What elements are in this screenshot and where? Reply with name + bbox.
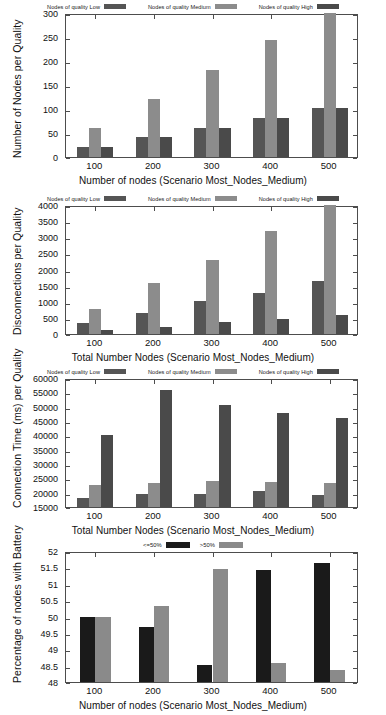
y-axis-tick (353, 272, 357, 273)
y-axis-tick (353, 480, 357, 481)
legend-item: Nodes of quality High (259, 196, 339, 202)
y-axis-tick (353, 668, 357, 669)
x-axis-title-2: Total Number Nodes (Scenario Most_Nodes_… (0, 352, 386, 363)
bar (136, 137, 148, 157)
x-axis-tick-label: 400 (262, 511, 278, 521)
bar (312, 281, 324, 334)
chart-nodes-per-quality: Nodes of quality LowNodes of quality Med… (0, 0, 386, 192)
bar (312, 108, 324, 157)
x-axis-tick (271, 380, 272, 384)
y-axis-labels-2: 05001000150020002500300035004000 (0, 206, 62, 335)
x-axis-tick (154, 380, 155, 384)
legend-item: Nodes of quality Medium (148, 4, 237, 10)
chart-disconnections-per-quality: Nodes of quality LowNodes of quality Med… (0, 192, 386, 365)
x-axis-tick-label: 500 (321, 686, 337, 696)
y-axis-tick-label: 30000 (33, 461, 58, 470)
bar (265, 40, 277, 157)
x-axis-labels-3: 100200300400500 (65, 511, 358, 523)
legend-item: Nodes of quality High (259, 369, 339, 375)
bar (194, 494, 206, 507)
bar (101, 330, 113, 335)
y-axis-tick (66, 619, 70, 620)
x-axis-tick (271, 553, 272, 557)
y-axis-labels-4: 4848.54949.55050.55151.552 (0, 552, 62, 683)
x-axis-tick-label: 200 (145, 511, 161, 521)
bar (206, 481, 218, 507)
x-axis-tick (154, 207, 155, 211)
y-axis-tick (353, 320, 357, 321)
bar (77, 147, 89, 157)
bar (213, 569, 228, 682)
bar (89, 485, 101, 507)
bar (219, 322, 231, 334)
x-axis-tick (95, 553, 96, 557)
x-axis-title-3: Total Number Nodes (Scenario Most_Nodes_… (0, 525, 386, 536)
legend-swatch (317, 196, 339, 201)
legend-item: Nodes of quality Low (47, 196, 126, 202)
bars-1 (66, 15, 357, 157)
legend-swatch (219, 542, 243, 548)
bar (89, 309, 101, 334)
x-axis-tick-label: 100 (86, 338, 102, 348)
y-axis-tick (353, 255, 357, 256)
y-axis-tick (66, 394, 70, 395)
x-axis-tick (213, 207, 214, 211)
plot-area-2 (65, 206, 358, 335)
y-axis-tick-label: 49 (48, 646, 58, 655)
legend-item-label: Nodes of quality High (259, 369, 313, 375)
x-axis-labels-2: 100200300400500 (65, 338, 358, 350)
bar (160, 137, 172, 157)
x-axis-tick (213, 15, 214, 19)
y-axis-tick (353, 39, 357, 40)
legend-swatch (215, 369, 237, 374)
x-axis-tick-label: 100 (86, 511, 102, 521)
y-axis-tick-label: 2500 (38, 250, 58, 259)
y-axis-tick-label: 20000 (33, 489, 58, 498)
bar (194, 128, 206, 157)
x-axis-tick-label: 500 (321, 511, 337, 521)
y-axis-tick (353, 158, 357, 159)
bar (77, 498, 89, 507)
x-axis-tick (330, 380, 331, 384)
bar (136, 494, 148, 507)
legend-item: Nodes of quality Low (47, 4, 126, 10)
y-axis-tick-label: 500 (43, 314, 58, 323)
y-axis-tick (66, 207, 70, 208)
y-axis-tick (353, 239, 357, 240)
y-axis-tick (353, 288, 357, 289)
chart-percentage-nodes-with-battery: <=50%>50% Percentage of nodes with Batte… (0, 538, 386, 715)
x-axis-tick-label: 100 (86, 686, 102, 696)
plot-area-1 (65, 14, 358, 158)
y-axis-tick (66, 495, 70, 496)
bar (101, 435, 113, 507)
x-axis-tick-label: 300 (204, 338, 220, 348)
y-axis-tick-label: 3500 (38, 218, 58, 227)
bar (324, 205, 336, 334)
y-axis-tick (66, 683, 70, 684)
bars-4 (66, 553, 357, 682)
bar (277, 319, 289, 334)
y-axis-tick (66, 335, 70, 336)
y-axis-tick-label: 3000 (38, 234, 58, 243)
bar (324, 13, 336, 157)
bar (194, 301, 206, 334)
plot-area-3 (65, 379, 358, 508)
y-axis-tick-label: 48 (48, 679, 58, 688)
legend-item-label: Nodes of quality Medium (148, 369, 211, 375)
y-axis-tick-label: 150 (43, 82, 58, 91)
bar (219, 405, 231, 507)
x-axis-tick-label: 100 (86, 161, 102, 171)
y-axis-tick-label: 55000 (33, 389, 58, 398)
y-axis-tick (66, 480, 70, 481)
x-axis-title-1: Number of nodes (Scenario Most_Nodes_Med… (0, 175, 386, 186)
y-axis-tick (353, 423, 357, 424)
y-axis-tick-label: 50 (48, 130, 58, 139)
bar (148, 99, 160, 157)
bar (139, 627, 154, 682)
y-axis-tick (66, 111, 70, 112)
y-axis-tick (353, 602, 357, 603)
y-axis-tick-label: 200 (43, 58, 58, 67)
y-axis-tick (66, 409, 70, 410)
legend-item-label: Nodes of quality Medium (148, 196, 211, 202)
y-axis-tick (353, 409, 357, 410)
